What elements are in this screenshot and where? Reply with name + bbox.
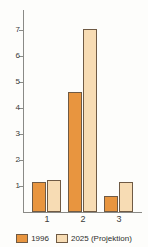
bar-chart: 7654321 123 1996 2025 (Projektion) xyxy=(0,0,148,247)
bar-2025-2[interactable] xyxy=(83,29,97,212)
bar-group-3 xyxy=(102,0,136,212)
y-tick-label-6: 6 xyxy=(6,52,20,60)
legend-label-1996: 1996 xyxy=(31,234,49,243)
y-tick-label-2: 2 xyxy=(6,156,20,164)
bar-2025-3[interactable] xyxy=(119,182,133,212)
bar-1996-3[interactable] xyxy=(104,196,118,212)
y-tick-label-3: 3 xyxy=(6,130,20,138)
y-tick-label-4: 4 xyxy=(6,104,20,112)
chart-legend: 1996 2025 (Projektion) xyxy=(0,230,148,247)
x-tick-label-3: 3 xyxy=(102,214,136,224)
legend-item-1996[interactable]: 1996 xyxy=(16,234,49,243)
legend-item-2025[interactable]: 2025 (Projektion) xyxy=(56,234,132,243)
plot-area: 7654321 123 xyxy=(0,0,148,222)
x-axis-line xyxy=(23,212,142,213)
x-tick-label-1: 1 xyxy=(30,214,64,224)
bar-series-container xyxy=(23,0,142,212)
bar-group-2 xyxy=(66,0,100,212)
bar-group-1 xyxy=(30,0,64,212)
y-tick-label-7: 7 xyxy=(6,26,20,34)
y-tick-label-1: 1 xyxy=(6,182,20,190)
legend-swatch-2025 xyxy=(56,234,68,243)
bar-2025-1[interactable] xyxy=(47,180,61,212)
y-tick-label-5: 5 xyxy=(6,78,20,86)
bar-1996-2[interactable] xyxy=(68,92,82,212)
x-tick-label-2: 2 xyxy=(66,214,100,224)
bar-1996-1[interactable] xyxy=(32,182,46,212)
legend-swatch-1996 xyxy=(16,234,28,243)
legend-label-2025: 2025 (Projektion) xyxy=(71,234,132,243)
